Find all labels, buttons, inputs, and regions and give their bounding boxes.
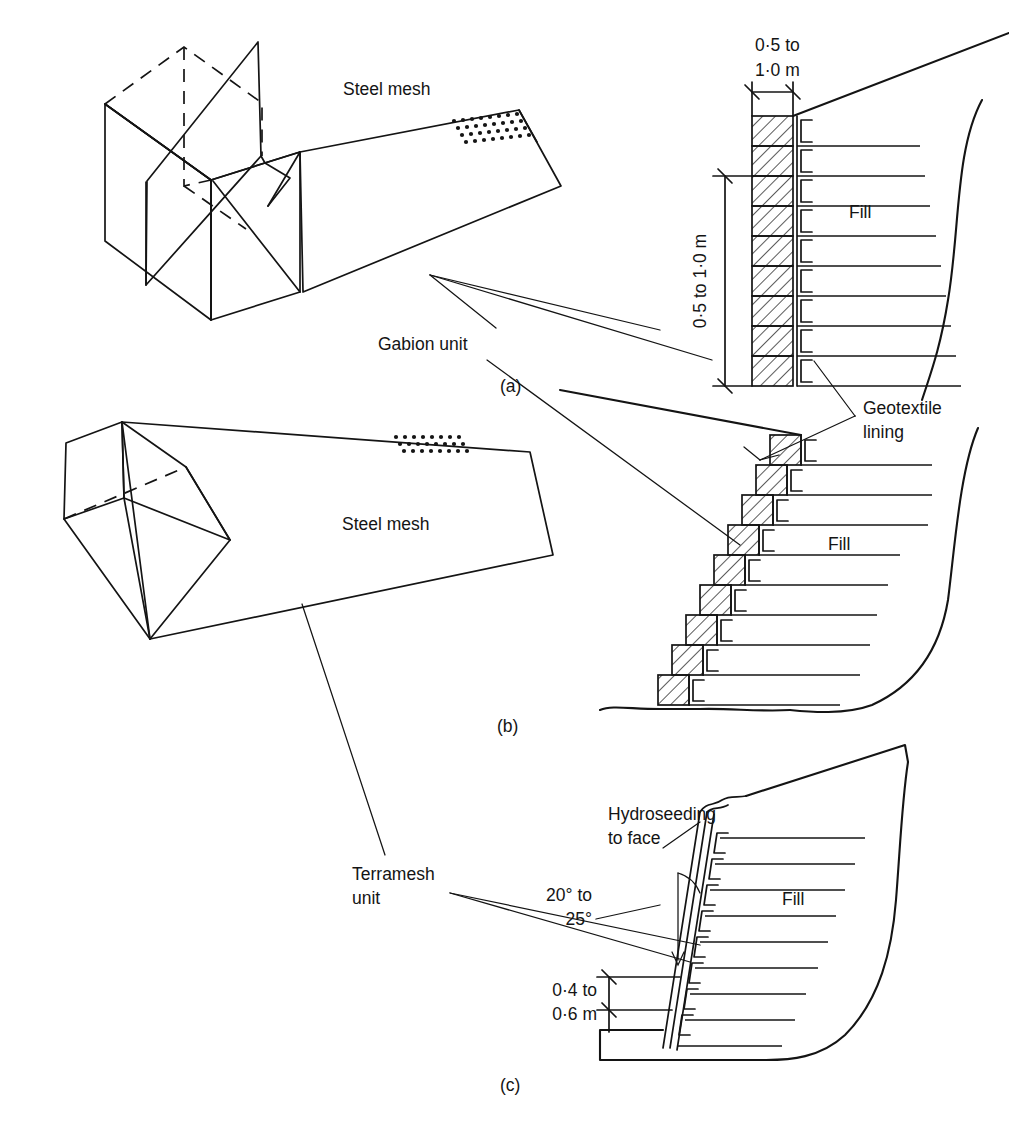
natural-slope-a bbox=[922, 100, 982, 400]
width-dim-label-line1: 0·5 to bbox=[755, 35, 800, 55]
terramesh-sheet-inner-edge bbox=[124, 498, 150, 639]
gabion-face-diagonal-3 bbox=[213, 181, 300, 292]
terramesh-face-line-1 bbox=[663, 812, 700, 1048]
gabion-unit-isometric: Steel mesh bbox=[105, 42, 561, 320]
terramesh-fold-face bbox=[122, 422, 230, 540]
wall-section-c: Hydroseeding to face bbox=[546, 745, 908, 1060]
terramesh-unit-label-line2: unit bbox=[352, 888, 380, 908]
terramesh-end-panel bbox=[64, 422, 124, 519]
wall-section-b bbox=[560, 390, 978, 712]
width-dim-label-line2: 1·0 m bbox=[755, 60, 800, 80]
thickness-label-line2: 0·6 m bbox=[552, 1004, 597, 1024]
terramesh-face-line-2 bbox=[670, 812, 707, 1048]
mesh-texture-patch-a bbox=[452, 112, 531, 144]
fill-label-a: Fill bbox=[849, 202, 871, 222]
fill-label-c: Fill bbox=[782, 889, 804, 909]
fill-label-b: Fill bbox=[828, 534, 850, 554]
gabion-lid-panel bbox=[146, 42, 261, 285]
angle-label-line2: 25° bbox=[566, 909, 592, 929]
panel-caption-c: (c) bbox=[500, 1075, 520, 1095]
gabion-unit-label: Gabion unit bbox=[378, 334, 468, 354]
panel-caption-a: (a) bbox=[500, 376, 521, 396]
steel-mesh-label-a: Steel mesh bbox=[343, 79, 431, 99]
terramesh-leader-from-box bbox=[302, 604, 385, 855]
gabion-unit-leaders bbox=[430, 275, 712, 360]
ground-surface-a bbox=[793, 33, 1009, 116]
terramesh-hidden-edge bbox=[64, 467, 186, 519]
geotextile-label-line1: Geotextile bbox=[863, 398, 942, 418]
ground-surface-b bbox=[560, 390, 801, 435]
natural-slope-b bbox=[790, 428, 978, 712]
terramesh-mesh-sheet bbox=[122, 422, 553, 639]
geotextile-leader-b-tip bbox=[744, 447, 760, 460]
geotextile-leader-a bbox=[814, 361, 855, 416]
gabion-stack-a bbox=[752, 116, 793, 386]
panel-caption-b: (b) bbox=[497, 716, 518, 736]
wall-section-a: 0·5 to 1·0 m bbox=[690, 33, 1009, 400]
ground-line-b bbox=[600, 707, 790, 710]
geotextile-brackets-a bbox=[797, 116, 812, 386]
gabion-top-rim bbox=[105, 104, 300, 180]
gabion-leader-to-b bbox=[487, 360, 740, 545]
steel-mesh-label-b: Steel mesh bbox=[342, 514, 430, 534]
steel-mesh-sheet-a bbox=[300, 110, 561, 292]
thickness-label-line1: 0·4 to bbox=[552, 980, 597, 1000]
gabion-left-face bbox=[105, 104, 211, 320]
height-dimension-a bbox=[713, 169, 752, 393]
engineering-diagram: Steel mesh Gabion unit (a) 0·5 to 1·0 m bbox=[0, 0, 1009, 1131]
natural-slope-c bbox=[746, 745, 908, 1060]
terramesh-fold-crease bbox=[186, 467, 230, 540]
height-dim-label: 0·5 to 1·0 m bbox=[690, 234, 710, 328]
gabion-stack-b bbox=[658, 435, 801, 705]
geotextile-label-line2: lining bbox=[863, 422, 904, 442]
geotextile-brackets-b bbox=[689, 435, 816, 705]
hydroseeding-label-line2: to face bbox=[608, 828, 661, 848]
reinforcement-layers-a bbox=[797, 146, 961, 386]
angle-leader bbox=[596, 905, 660, 919]
figure-page: Steel mesh Gabion unit (a) 0·5 to 1·0 m bbox=[0, 0, 1009, 1131]
width-dimension-arrows bbox=[745, 82, 800, 116]
gabion-face-diagonal-1 bbox=[105, 104, 211, 180]
terramesh-unit-leaders bbox=[302, 604, 700, 962]
terramesh-unit-label-line1: Terramesh bbox=[352, 864, 435, 884]
gabion-leader-2 bbox=[430, 275, 712, 360]
terramesh-unit-isometric: Steel mesh bbox=[64, 422, 553, 639]
angle-label-line1: 20° to bbox=[546, 885, 592, 905]
